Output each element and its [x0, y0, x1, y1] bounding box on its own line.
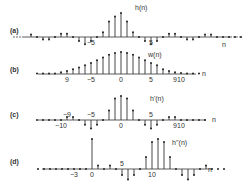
stem-marker: [90, 127, 92, 129]
stem-marker: [54, 36, 56, 38]
series-label: h'(n): [150, 95, 164, 103]
stem-marker: [42, 38, 44, 40]
stem-marker: [199, 168, 201, 170]
stem-marker: [144, 59, 146, 61]
stem-marker: [48, 38, 50, 40]
tick-label: 5: [149, 111, 153, 118]
panel-label: (b): [10, 66, 19, 74]
tick-label: −5: [87, 39, 95, 46]
stem-marker: [121, 174, 123, 176]
stem-marker: [102, 57, 104, 59]
stem-marker: [138, 36, 140, 38]
stem-marker: [205, 164, 207, 166]
stem-marker: [192, 73, 194, 75]
stem-marker: [67, 168, 69, 170]
stem-marker: [109, 164, 111, 166]
stem-marker: [186, 119, 188, 121]
stem-marker: [84, 64, 86, 66]
stem-marker: [42, 73, 44, 75]
axis-label-n: n: [202, 70, 206, 77]
panel-label: (a): [10, 27, 19, 35]
stem-marker: [120, 95, 122, 97]
stem-marker: [234, 36, 236, 38]
stem-marker: [84, 43, 86, 45]
tick-label: −5: [87, 76, 95, 83]
stem-marker: [91, 138, 93, 140]
stem-marker: [240, 36, 242, 38]
stem-marker: [150, 127, 152, 129]
stem-marker: [139, 168, 141, 170]
tick-label: 5: [149, 76, 153, 83]
stem-marker: [198, 36, 200, 38]
stem-marker: [85, 168, 87, 170]
stem-marker: [193, 174, 195, 176]
stem-marker: [133, 174, 135, 176]
stem-marker: [72, 68, 74, 70]
tick-label: 10: [177, 122, 185, 129]
stem-marker: [66, 33, 68, 35]
stem-marker: [84, 124, 86, 126]
tick-label: 5: [120, 160, 124, 167]
stem-marker: [79, 168, 81, 170]
tick-label: 5: [149, 39, 153, 46]
stem-marker: [60, 33, 62, 35]
stem-marker: [36, 119, 38, 121]
series-label: h(n): [135, 4, 147, 12]
stem-marker: [126, 97, 128, 99]
stem-marker: [138, 119, 140, 121]
stem-marker: [78, 66, 80, 68]
stem-marker: [145, 156, 147, 158]
stem-marker: [103, 168, 105, 170]
stem-marker: [162, 119, 164, 121]
stem-marker: [157, 138, 159, 140]
tick-label: −3: [70, 171, 78, 178]
stem-marker: [102, 119, 104, 121]
tick-label: 0: [119, 122, 123, 129]
stem-marker: [138, 57, 140, 59]
stem-marker: [48, 119, 50, 121]
stem-marker: [115, 168, 117, 170]
stem-marker: [66, 70, 68, 72]
stem-marker: [222, 36, 224, 38]
stem-marker: [210, 34, 212, 36]
stem-marker: [114, 16, 116, 18]
series-label: h''(n): [172, 139, 187, 147]
stem-marker: [60, 119, 62, 121]
stem-marker: [54, 119, 56, 121]
stem-marker: [144, 40, 146, 42]
stem-marker: [36, 73, 38, 75]
stem-marker: [169, 156, 171, 158]
stem-marker: [181, 174, 183, 176]
stem-marker: [73, 168, 75, 170]
tick-label: −5: [87, 111, 95, 118]
stem-marker: [217, 168, 219, 170]
stem-marker: [156, 124, 158, 126]
tick-label: 10: [148, 171, 156, 178]
stem-marker: [198, 119, 200, 121]
stem-marker: [54, 73, 56, 75]
stem-marker: [216, 36, 218, 38]
stem-marker: [127, 179, 129, 181]
stem-marker: [192, 119, 194, 121]
tick-label: 0: [90, 171, 94, 178]
stem-marker: [162, 68, 164, 70]
stem-marker: [174, 33, 176, 35]
tick-label: 9: [65, 76, 69, 83]
stem-marker: [162, 36, 164, 38]
stem-marker: [108, 54, 110, 56]
axis-label-n: n: [212, 116, 216, 123]
stem-marker: [42, 119, 44, 121]
stem-marker: [156, 40, 158, 42]
stem-marker: [120, 12, 122, 14]
stem-marker: [204, 119, 206, 121]
stem-marker: [78, 40, 80, 42]
stem-marker: [114, 97, 116, 99]
stem-marker: [30, 34, 32, 36]
stem-marker: [102, 31, 104, 33]
stem-marker: [180, 72, 182, 74]
stem-marker: [228, 36, 230, 38]
stem-marker: [96, 36, 98, 38]
stem-marker: [186, 38, 188, 40]
tick-label: 0: [119, 76, 123, 83]
stem-marker: [156, 64, 158, 66]
